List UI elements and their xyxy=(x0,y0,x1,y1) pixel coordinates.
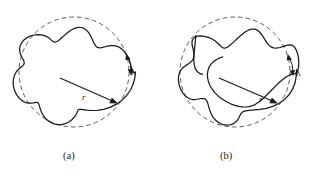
panel-b-open-end-tail xyxy=(194,36,203,75)
panel-a-radius-label: r xyxy=(82,93,86,102)
panel-a-radius-line xyxy=(60,78,114,102)
panel-a-reference-circle xyxy=(19,17,129,127)
panel-a-radius-arrowhead xyxy=(109,98,118,104)
panel-a-wavelength-label: λ xyxy=(130,67,136,77)
panel-b-reference-circle xyxy=(180,17,290,127)
panel-a-caption: (a) xyxy=(63,151,75,162)
panel-a-wave-path xyxy=(13,27,135,124)
panel-b-wavelength-label: λ xyxy=(295,68,301,78)
panel-b-caption: (b) xyxy=(220,151,232,162)
figure-canvas xyxy=(0,0,314,178)
figure-root: r λ (a) r λ (b) xyxy=(0,0,314,178)
panel-b-radius-label: r xyxy=(259,95,263,104)
panel-a-group xyxy=(13,17,135,127)
panel-b-wave-path xyxy=(178,29,298,125)
panel-b-radius-arrowhead xyxy=(269,98,278,104)
panel-b-radius-line xyxy=(219,78,274,102)
panel-b-group xyxy=(178,17,298,127)
